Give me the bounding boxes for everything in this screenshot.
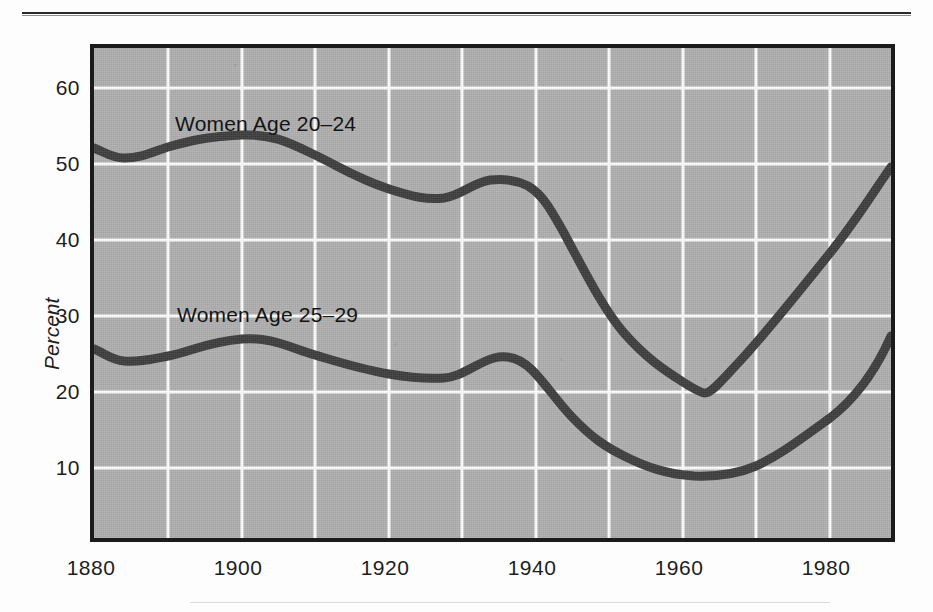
page-canvas: Percent 60 50 40 30 20 10 1880 1900 1920… xyxy=(0,0,933,612)
x-tick-1900: 1900 xyxy=(188,556,288,580)
y-tick-10: 10 xyxy=(28,456,80,480)
series-label-women-25-29: Women Age 25–29 xyxy=(177,303,358,327)
x-tick-1880: 1880 xyxy=(41,556,141,580)
y-tick-40: 40 xyxy=(28,228,80,252)
y-tick-60: 60 xyxy=(28,76,80,100)
x-tick-1960: 1960 xyxy=(629,556,729,580)
y-tick-20: 20 xyxy=(28,380,80,404)
x-tick-1940: 1940 xyxy=(482,556,582,580)
x-tick-1980: 1980 xyxy=(776,556,876,580)
y-tick-30: 30 xyxy=(28,304,80,328)
line-chart-figure: Percent 60 50 40 30 20 10 1880 1900 1920… xyxy=(0,0,933,612)
series-label-women-20-24: Women Age 20–24 xyxy=(175,112,356,136)
x-tick-1920: 1920 xyxy=(335,556,435,580)
series-line-women-25-29 xyxy=(94,336,891,476)
y-tick-50: 50 xyxy=(28,152,80,176)
